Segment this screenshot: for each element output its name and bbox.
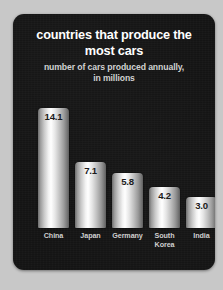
bar-group-china: 14.1 China <box>38 108 69 228</box>
bar-value-india: 3.0 <box>186 200 215 211</box>
bar-label-india-line-1: India <box>178 232 215 241</box>
bar-group-germany: 5.8 Germany <box>112 173 143 228</box>
bar-label-india: India <box>178 232 215 241</box>
plot-area: 14.1 China 7.1 Japan 5.8 Germany 4. <box>13 14 215 270</box>
bar-group-india: 3.0 India <box>186 197 215 228</box>
bar-germany[interactable]: 5.8 <box>112 173 143 228</box>
bar-value-germany: 5.8 <box>112 176 143 187</box>
bar-label-south-korea-line-2: Korea <box>141 241 188 250</box>
bar-value-china: 14.1 <box>38 111 69 122</box>
bar-china[interactable]: 14.1 <box>38 108 69 228</box>
bar-india[interactable]: 3.0 <box>186 197 215 228</box>
bar-group-japan: 7.1 Japan <box>75 162 106 228</box>
bar-south-korea[interactable]: 4.2 <box>149 187 180 228</box>
bar-group-south-korea: 4.2 South Korea <box>149 187 180 228</box>
bar-value-japan: 7.1 <box>75 165 106 176</box>
chart-card: countries that produce the most cars num… <box>13 14 215 270</box>
bar-japan[interactable]: 7.1 <box>75 162 106 228</box>
bar-value-south-korea: 4.2 <box>149 190 180 201</box>
